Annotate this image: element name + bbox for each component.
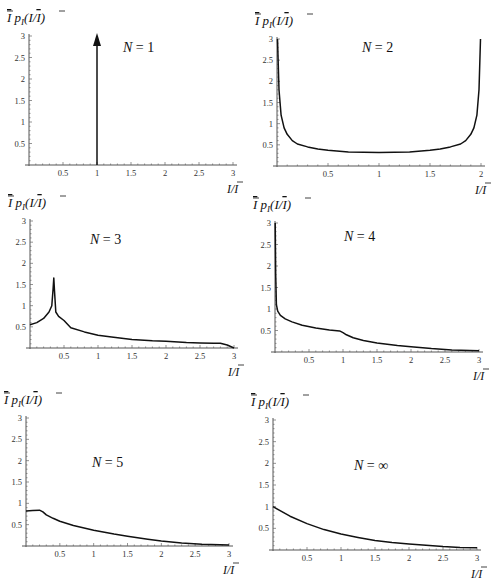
y-tick-label: 2	[18, 456, 22, 466]
y-tick-label: 2.5	[262, 55, 273, 65]
x-tick-label: 2.5	[195, 351, 206, 361]
distribution-curve	[26, 510, 229, 545]
panel-title: N = 2	[361, 40, 393, 55]
y-tick-label: 1	[22, 301, 26, 311]
y-tick-label: 2	[267, 261, 271, 271]
x-axis-label: I/I	[227, 365, 240, 379]
y-tick-label: 0.5	[260, 326, 271, 336]
y-tick-label: 2.5	[14, 53, 25, 63]
y-tick-label: 0.5	[14, 139, 25, 149]
x-tick-label: 2.5	[194, 168, 205, 178]
panel-title: N = 4	[343, 229, 375, 244]
panel-n5: I pI(I/I)0.511.522.530.511.522.53I/IN = …	[3, 392, 239, 577]
x-tick-label: 2.5	[438, 553, 449, 563]
x-tick-label: 2	[163, 168, 167, 178]
panel-title: N = 1	[122, 40, 154, 55]
x-tick-label: 3	[231, 168, 235, 178]
y-tick-label: 2.5	[260, 240, 271, 250]
x-axis-label: I/I	[472, 369, 485, 383]
y-tick-label: 3	[22, 216, 26, 226]
y-tick-label: 1.5	[15, 280, 26, 290]
y-tick-label: 3	[21, 31, 25, 41]
x-tick-label: 1	[339, 553, 343, 563]
x-tick-label: 1.5	[425, 169, 436, 179]
distribution-curve	[273, 507, 477, 548]
x-tick-label: 0.5	[59, 351, 70, 361]
x-tick-label: 1	[341, 355, 345, 365]
x-axis-label: I/I	[226, 182, 239, 196]
distribution-curve	[275, 223, 479, 351]
x-tick-label: 2.5	[440, 355, 451, 365]
y-tick-label: 3	[18, 413, 22, 423]
x-tick-label: 2	[409, 355, 413, 365]
y-tick-label: 0.5	[15, 322, 26, 332]
arrowhead-icon	[93, 33, 101, 46]
panel-ninf: I pI(I/I)0.511.522.530.511.522.53I/IN = …	[250, 394, 487, 581]
x-tick-label: 2	[479, 169, 483, 179]
y-tick-label: 1.5	[262, 98, 273, 108]
x-axis-label: I/I	[474, 183, 487, 197]
x-tick-label: 3	[227, 549, 231, 559]
y-tick-label: 1	[265, 502, 269, 512]
y-axis-label: I pI(I/I)	[6, 10, 45, 27]
x-tick-label: 1	[92, 549, 96, 559]
y-tick-label: 2	[21, 74, 25, 84]
y-axis-label: I pI(I/I)	[252, 197, 291, 214]
y-tick-label: 1	[21, 117, 25, 127]
y-tick-label: 0.5	[11, 520, 22, 530]
y-tick-label: 2	[269, 76, 273, 86]
y-tick-label: 3	[269, 34, 273, 44]
x-tick-label: 1	[95, 168, 99, 178]
y-axis-label: I pI(I/I)	[7, 195, 46, 212]
x-tick-label: 0.5	[323, 169, 334, 179]
x-tick-label: 3	[475, 553, 479, 563]
x-tick-label: 2	[159, 549, 163, 559]
y-tick-label: 1.5	[258, 480, 269, 490]
x-tick-label: 1	[377, 169, 381, 179]
y-tick-label: 1	[267, 304, 271, 314]
x-tick-label: 1.5	[126, 168, 137, 178]
y-tick-label: 1.5	[260, 283, 271, 293]
x-tick-label: 3	[232, 351, 236, 361]
figure-canvas: I pI(I/I)0.511.522.530.511.522.53I/IN = …	[0, 0, 498, 587]
y-tick-label: 3	[265, 415, 269, 425]
panel-n1: I pI(I/I)0.511.522.530.511.522.53I/IN = …	[6, 10, 243, 196]
x-axis-label: I/I	[470, 567, 483, 581]
x-tick-label: 2.5	[190, 549, 201, 559]
x-tick-label: 3	[477, 355, 481, 365]
x-tick-label: 1.5	[122, 549, 133, 559]
panel-n2: I pI(I/I)0.511.520.511.522.53I/IN = 2	[254, 13, 491, 197]
y-axis-label: I pI(I/I)	[254, 13, 293, 30]
y-tick-label: 1	[18, 498, 22, 508]
distribution-curve	[278, 39, 481, 153]
distribution-curve	[30, 278, 234, 348]
y-tick-label: 1.5	[14, 96, 25, 106]
x-tick-label: 1	[96, 351, 100, 361]
y-tick-label: 0.5	[258, 523, 269, 533]
panel-title: N = 3	[89, 232, 121, 247]
panel-title: N = ∞	[353, 458, 388, 473]
x-tick-label: 1.5	[372, 355, 383, 365]
x-tick-label: 0.5	[304, 355, 315, 365]
x-axis-label: I/I	[222, 563, 235, 577]
y-tick-label: 2.5	[15, 237, 26, 247]
x-tick-label: 1.5	[370, 553, 381, 563]
y-tick-label: 2	[265, 458, 269, 468]
y-tick-label: 1.5	[11, 477, 22, 487]
y-axis-label: I pI(I/I)	[3, 392, 42, 409]
x-tick-label: 2	[407, 553, 411, 563]
panel-n3: I pI(I/I)0.511.522.530.511.522.53I/IN = …	[7, 195, 244, 379]
y-tick-label: 2.5	[11, 434, 22, 444]
x-tick-label: 0.5	[55, 549, 66, 559]
panel-n4: I pI(I/I)0.511.522.530.511.522.53I/IN = …	[252, 197, 489, 383]
x-tick-label: 2	[164, 351, 168, 361]
panel-title: N = 5	[91, 455, 123, 470]
y-tick-label: 3	[267, 218, 271, 228]
x-tick-label: 0.5	[302, 553, 313, 563]
y-tick-label: 2	[22, 258, 26, 268]
y-tick-label: 1	[269, 119, 273, 129]
y-tick-label: 0.5	[262, 140, 273, 150]
y-axis-label: I pI(I/I)	[250, 394, 289, 411]
x-tick-label: 1.5	[127, 351, 138, 361]
y-tick-label: 2.5	[258, 437, 269, 447]
